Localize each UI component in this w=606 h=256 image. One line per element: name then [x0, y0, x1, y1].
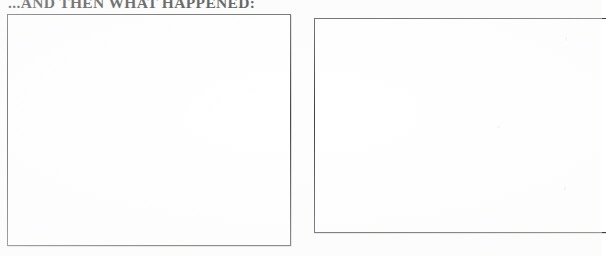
drawing-panel-right-canvas[interactable]	[315, 19, 606, 232]
page-title: ...AND THEN WHAT HAPPENED:	[8, 0, 428, 13]
drawing-panel-right[interactable]	[314, 18, 606, 233]
page-title-text: ...AND THEN WHAT HAPPENED:	[8, 0, 428, 12]
drawing-panel-left-canvas[interactable]	[8, 15, 290, 245]
drawing-panel-left[interactable]	[7, 14, 291, 246]
